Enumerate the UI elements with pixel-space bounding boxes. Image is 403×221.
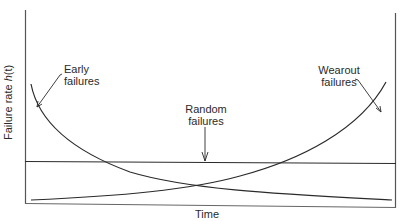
wearout-label-line2: failures [315, 76, 363, 88]
y-axis-label-text: Failure rate [2, 81, 14, 140]
random-failures-line [25, 162, 396, 164]
early-arrow-icon [37, 74, 62, 107]
y-axis-label-fn: h [2, 75, 14, 81]
early-label-line2: failures [64, 75, 99, 87]
x-axis-label: Time [195, 208, 219, 220]
x-axis [25, 204, 396, 208]
random-label-line1: Random [181, 103, 231, 115]
wearout-label-line1: Wearout [315, 64, 363, 76]
wearout-failures-curve [31, 82, 386, 200]
early-label-line1: Early [64, 63, 99, 75]
random-arrow-icon [202, 127, 208, 161]
random-failures-label: Random failures [181, 103, 231, 127]
wearout-failures-label: Wearout failures [315, 64, 363, 88]
random-label-line2: failures [181, 115, 231, 127]
y-axis-label: Failure rate h(t) [2, 65, 14, 140]
y-axis-label-arg: (t) [2, 65, 14, 75]
early-failures-label: Early failures [64, 63, 99, 87]
